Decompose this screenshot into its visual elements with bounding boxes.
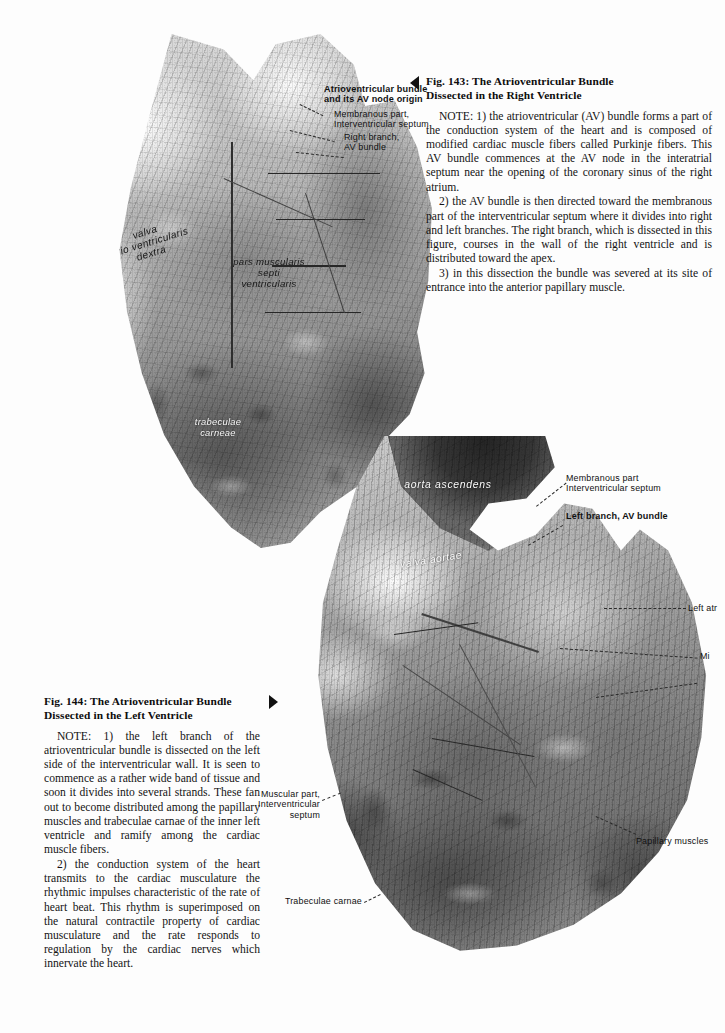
label-left-atrium: Left atr bbox=[688, 603, 725, 613]
dissection-probe bbox=[265, 312, 362, 313]
atlas-page: valva atrio ventricularis dextra pars mu… bbox=[0, 0, 725, 1033]
label-trabeculae-carnae: Trabeculae carnae bbox=[274, 896, 362, 906]
leader-line-trabeculae-carnae bbox=[364, 894, 381, 903]
label-membranous-part-interventricular-septum-left: Membranous part Interventricular septum bbox=[566, 473, 716, 494]
figure-144-note-2: 2) the conduction system of the heart tr… bbox=[44, 858, 260, 972]
label-left-branch-av-bundle: Left branch, AV bundle bbox=[566, 511, 716, 521]
leader-line-membranous-part-left bbox=[536, 483, 567, 507]
dissection-probe bbox=[268, 173, 380, 175]
dissection-probe bbox=[231, 142, 233, 368]
label-mitral-valve: Mi bbox=[700, 651, 725, 661]
leader-line-left-atrium bbox=[604, 608, 686, 609]
label-muscular-part-interventricular-septum: Muscular part, Interventricular septum bbox=[254, 789, 320, 820]
label-papillary-muscles: Papillary muscles bbox=[636, 836, 725, 846]
figure-143-note-2: 2) the AV bundle is then directed toward… bbox=[426, 195, 712, 266]
figure-144-note-1: NOTE: 1) the left branch of the atrioven… bbox=[44, 730, 260, 858]
figure-143-caption-title: Fig. 143: The Atrioventricular Bundle Di… bbox=[426, 74, 712, 103]
figure-143-caption-body: NOTE: 1) the atrioventricular (AV) bundl… bbox=[426, 110, 712, 296]
figure-143-note-1: NOTE: 1) the atrioventricular (AV) bundl… bbox=[426, 110, 712, 195]
triangle-right-icon bbox=[269, 695, 278, 709]
figure-144-caption-title: Fig. 144: The Atrioventricular Bundle Di… bbox=[44, 694, 260, 723]
dissection-probe bbox=[272, 265, 346, 266]
triangle-left-icon bbox=[410, 76, 419, 90]
leader-line-muscular-part bbox=[322, 793, 341, 801]
figure-143-caption: Fig. 143: The Atrioventricular Bundle Di… bbox=[426, 74, 712, 295]
figure-143-note-3: 3) in this dissection the bundle was sev… bbox=[426, 267, 712, 295]
figure-144-caption-body: NOTE: 1) the left branch of the atrioven… bbox=[44, 730, 260, 972]
figure-144-caption: Fig. 144: The Atrioventricular Bundle Di… bbox=[44, 694, 260, 972]
